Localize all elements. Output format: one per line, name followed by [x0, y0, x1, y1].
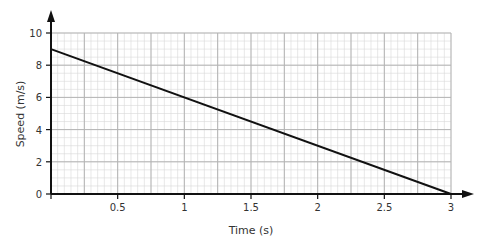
x-axis-label: Time (s) — [228, 224, 274, 237]
svg-text:2: 2 — [314, 202, 320, 213]
svg-text:0.5: 0.5 — [110, 202, 126, 213]
svg-text:1: 1 — [181, 202, 187, 213]
svg-text:2.5: 2.5 — [376, 202, 392, 213]
svg-text:2: 2 — [36, 157, 42, 168]
svg-text:3: 3 — [448, 202, 454, 213]
speed-time-graph: 0.511.522.530246810 Time (s) Speed (m/s) — [0, 0, 483, 246]
svg-text:4: 4 — [36, 125, 42, 136]
svg-text:6: 6 — [36, 92, 42, 103]
svg-text:8: 8 — [36, 60, 42, 71]
svg-text:1.5: 1.5 — [243, 202, 259, 213]
y-axis-label: Speed (m/s) — [14, 81, 27, 148]
tick-labels: 0.511.522.530246810 — [29, 28, 454, 213]
svg-text:0: 0 — [36, 189, 42, 200]
svg-text:10: 10 — [29, 28, 42, 39]
